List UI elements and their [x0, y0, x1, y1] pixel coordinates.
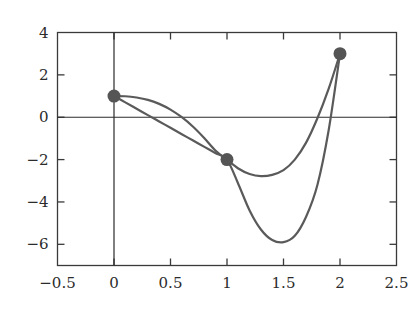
x-tick-label: 2.5	[385, 276, 409, 291]
y-tick-label: 4	[39, 25, 49, 40]
y-tick-label: −4	[26, 194, 48, 209]
plot-canvas	[0, 0, 419, 311]
x-tick-label: 1	[222, 276, 232, 291]
tick-marks	[58, 33, 397, 266]
data-point-marker	[334, 47, 347, 60]
data-point-markers	[108, 47, 347, 166]
y-tick-label: −2	[26, 152, 48, 167]
x-tick-label: 0	[109, 276, 119, 291]
x-tick-label: 0.5	[159, 276, 183, 291]
plot-frame-rect	[58, 33, 397, 266]
x-tick-label: −0.5	[39, 276, 75, 291]
y-tick-label: 0	[39, 110, 49, 125]
x-tick-label: 1.5	[272, 276, 296, 291]
data-point-marker	[108, 90, 121, 103]
x-tick-label: 2	[335, 276, 345, 291]
data-point-marker	[221, 153, 234, 166]
chart-figure: 420−2−4−6 −0.500.511.522.5	[0, 0, 419, 311]
zero-axis-lines	[58, 33, 397, 266]
y-tick-label: −6	[26, 237, 48, 252]
curve-deep-spline	[114, 54, 340, 243]
plot-frame	[58, 33, 397, 266]
y-tick-label: 2	[39, 67, 49, 82]
data-curves	[114, 54, 340, 243]
